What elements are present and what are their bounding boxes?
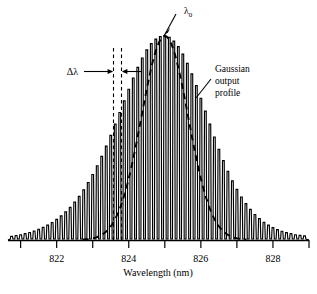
peak-lambda-subscript: 0: [189, 11, 193, 19]
spectrum-plot: 822824826828 Wavelength (nm) λ0 Δλ Gauss…: [0, 0, 317, 294]
x-axis-tick-label: 826: [193, 253, 208, 264]
x-axis-tick-label: 824: [121, 253, 136, 264]
figure-container: 822824826828 Wavelength (nm) λ0 Δλ Gauss…: [0, 0, 317, 294]
x-axis-tick-label: 822: [49, 253, 64, 264]
envelope-label-line-1: Gaussian: [215, 64, 250, 74]
x-axis-title: Wavelength (nm): [123, 267, 192, 279]
envelope-label-line-3: profile: [215, 88, 240, 98]
x-axis-tick-label: 828: [265, 253, 280, 264]
delta-lambda-label: Δλ: [67, 66, 78, 77]
envelope-label-line-2: output: [215, 76, 240, 86]
